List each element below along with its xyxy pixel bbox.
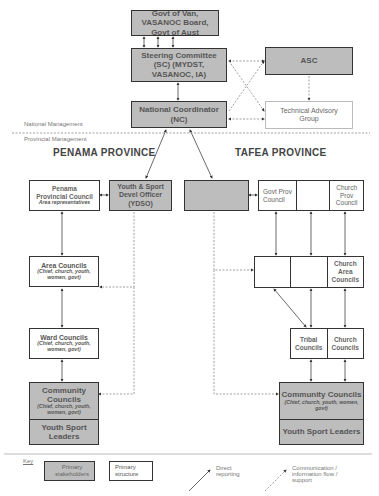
- asc-box: ASC: [265, 47, 353, 75]
- govt-box: Govt of Van, VASANOC Board, Govt of Aust: [131, 10, 219, 36]
- tribal-councils-cell: Tribal Councils: [291, 329, 327, 358]
- tafea-tribal-church-group: Tribal Councils Church Councils: [290, 328, 364, 359]
- key-direct-reporting: Direct reporting: [216, 465, 256, 477]
- ward-councils-box: Ward Councils (Chief, church, youth, wom…: [29, 328, 99, 359]
- technical-advisory-group-box: Technical Advisory Group: [265, 101, 353, 129]
- national-management-label: National Management: [24, 121, 83, 127]
- govt-prov-council-cell: Govt Prov Council: [259, 181, 296, 210]
- nc-line1: National Coordinator: [139, 105, 219, 114]
- area-councils-box: Area Councils (Chief, church, youth, wom…: [29, 256, 99, 287]
- tafea-area-blank2-cell: [290, 257, 326, 287]
- tafea-provincial-councils-group: Govt Prov Council Church Prov Council: [258, 180, 364, 211]
- ydso-box: Youth & Sport Devel Officer (YDSO): [109, 180, 172, 211]
- church-area-councils-cell: Church Area Councils: [327, 257, 363, 287]
- youth-sport-leaders: Youth Sport Leaders: [282, 427, 360, 436]
- tafea-area-councils-group: Church Area Councils: [254, 256, 364, 288]
- penama-council-sub: Area representatives: [39, 200, 90, 206]
- penama-community-box: Community Councils (Chief, church, youth…: [29, 382, 99, 445]
- key-primary-structure: Primary structure: [109, 461, 153, 481]
- tafea-community-box: Community Councils (Chief, church, youth…: [279, 382, 364, 445]
- national-coordinator-box: National Coordinator (NC): [131, 101, 227, 128]
- youth-sport-leaders: Youth Sport Leaders: [30, 423, 98, 441]
- penama-province-heading: PENAMA PROVINCE: [53, 147, 155, 158]
- church-councils-cell: Church Councils: [327, 329, 364, 358]
- community-councils-title: Community Councils: [30, 386, 98, 404]
- penama-provincial-council-box: Penama Provincial Council Area represent…: [29, 180, 100, 211]
- provincial-management-label: Provincial Management: [24, 136, 87, 142]
- penama-council-line1: Penama: [52, 185, 77, 192]
- area-councils-sub: (Chief, church, youth, women, govt): [30, 269, 98, 281]
- community-councils-sub: (Chief, church, youth, women, govt): [280, 400, 363, 412]
- ward-councils-sub: (Chief, church, youth, women, govt): [30, 341, 98, 353]
- tafea-blank-box: [184, 180, 249, 211]
- tafea-area-blank1-cell: [255, 257, 290, 287]
- key-primary-stakeholders: Primary stakeholders: [44, 461, 95, 481]
- tafea-province-heading: TAFEA PROVINCE: [235, 147, 326, 158]
- community-councils-sub: (Chief, church, youth, women, govt): [30, 404, 98, 416]
- tafea-prov-blank-cell: [296, 181, 330, 210]
- steering-committee-box: Steering Committee (SC) (MYDST, VASANOC,…: [131, 48, 227, 82]
- key-communication: Communication / information flow / suppo…: [292, 465, 354, 483]
- church-prov-council-cell: Church Prov Council: [329, 181, 363, 210]
- nc-line2: (NC): [171, 115, 188, 124]
- key-title: Key: [23, 458, 33, 464]
